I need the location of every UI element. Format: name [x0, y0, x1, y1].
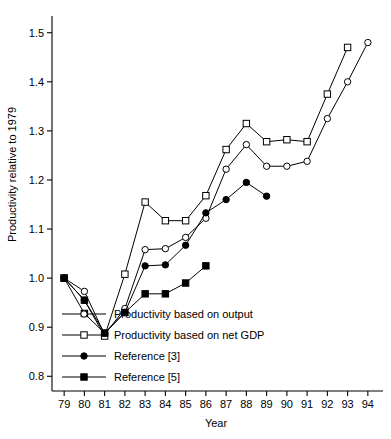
data-point [182, 217, 188, 223]
data-point [263, 163, 269, 169]
x-tick-label: 90 [281, 398, 293, 410]
y-tick-label: 1.1 [29, 223, 44, 235]
data-point [142, 246, 148, 252]
data-point [365, 39, 371, 45]
data-point [162, 245, 168, 251]
legend-item[interactable] [58, 347, 308, 365]
data-point [304, 158, 310, 164]
data-point [162, 291, 168, 297]
series-line [64, 47, 347, 336]
y-tick-label: 1.5 [29, 27, 44, 39]
legend-item[interactable] [58, 368, 308, 386]
data-point [223, 166, 229, 172]
data-point [284, 137, 290, 143]
x-tick-label: 85 [180, 398, 192, 410]
data-point [284, 163, 290, 169]
data-point [344, 44, 350, 50]
data-point [61, 275, 67, 281]
x-tick-label: 93 [341, 398, 353, 410]
y-tick-label: 1.2 [29, 174, 44, 186]
data-point [223, 146, 229, 152]
x-tick-label: 82 [119, 398, 131, 410]
x-tick-label: 80 [78, 398, 90, 410]
legend-item[interactable] [58, 326, 308, 344]
data-point [243, 179, 249, 185]
x-tick-label: 83 [139, 398, 151, 410]
data-point [182, 234, 188, 240]
data-point [182, 242, 188, 248]
x-tick-label: 84 [159, 398, 171, 410]
data-point [142, 199, 148, 205]
x-tick-label: 81 [99, 398, 111, 410]
data-point [324, 115, 330, 121]
y-tick-label: 0.8 [29, 370, 44, 382]
data-point [122, 271, 128, 277]
data-point [162, 217, 168, 223]
x-tick-label: 94 [362, 398, 374, 410]
data-point [142, 263, 148, 269]
data-point [81, 297, 87, 303]
chart-container: 0.80.91.01.11.21.31.41.57980818283848586… [0, 0, 391, 439]
data-point [344, 79, 350, 85]
x-tick-label: 91 [301, 398, 313, 410]
data-point [263, 138, 269, 144]
y-tick-label: 1.4 [29, 76, 44, 88]
legend-item[interactable] [58, 305, 308, 323]
series-line [64, 43, 368, 335]
data-point [203, 263, 209, 269]
data-point [324, 91, 330, 97]
y-tick-label: 1.3 [29, 125, 44, 137]
x-tick-label: 92 [321, 398, 333, 410]
x-tick-label: 87 [220, 398, 232, 410]
x-tick-label: 79 [58, 398, 70, 410]
y-tick-label: 1.0 [29, 272, 44, 284]
data-point [304, 138, 310, 144]
data-point [162, 262, 168, 268]
data-point [223, 196, 229, 202]
data-point [203, 192, 209, 198]
x-tick-label: 89 [260, 398, 272, 410]
data-point [81, 288, 87, 294]
data-point [263, 193, 269, 199]
y-tick-label: 0.9 [29, 321, 44, 333]
data-point [243, 120, 249, 126]
y-axis-title: Productivity relative to 1979 [6, 107, 18, 242]
data-point [142, 291, 148, 297]
x-tick-label: 88 [240, 398, 252, 410]
data-point [203, 210, 209, 216]
data-point [182, 280, 188, 286]
x-tick-label: 86 [200, 398, 212, 410]
x-axis-title: Year [205, 417, 228, 429]
data-point [243, 141, 249, 147]
productivity-line-chart: 0.80.91.01.11.21.31.41.57980818283848586… [0, 0, 391, 439]
